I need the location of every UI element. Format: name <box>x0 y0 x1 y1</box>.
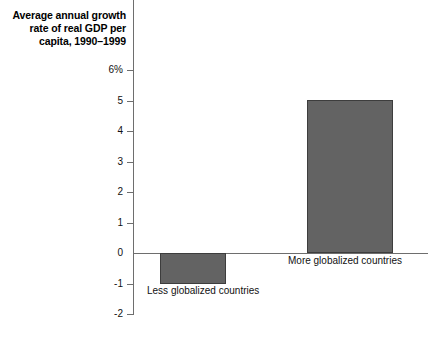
y-tick-label-6: 6% <box>88 65 123 75</box>
y-tick-label-1: 1 <box>88 218 123 228</box>
y-tick-label-5-wrap: 5 <box>88 96 123 106</box>
y-tick-label-1-wrap: 1 <box>88 218 123 228</box>
y-tick-5 <box>127 101 133 102</box>
bar-label-less-globalized: Less globalized countries <box>147 285 259 297</box>
bar-label-more-globalized: More globalized countries <box>288 255 402 267</box>
chart-title: Average annual growth rate of real GDP p… <box>4 9 126 49</box>
y-tick-neg2 <box>127 314 133 315</box>
chart-title-line-3: capita, 1990–1999 <box>4 35 126 48</box>
y-tick-3 <box>127 162 133 163</box>
y-tick-2 <box>127 192 133 193</box>
y-tick-label-4: 4 <box>88 126 123 136</box>
y-tick-6 <box>127 70 133 71</box>
y-tick-label-5: 5 <box>88 96 123 106</box>
y-tick-label-4-wrap: 4 <box>88 126 123 136</box>
chart-title-line-1: Average annual growth <box>4 9 126 22</box>
y-axis-line <box>133 0 134 315</box>
y-tick-4 <box>127 131 133 132</box>
bar-more-globalized <box>307 100 393 253</box>
chart-title-line-2: rate of real GDP per <box>4 22 126 35</box>
y-tick-1 <box>127 223 133 224</box>
bar-less-globalized <box>160 253 226 284</box>
y-tick-label-6-wrap: 6% <box>88 65 123 75</box>
y-tick-label-2: 2 <box>88 187 123 197</box>
y-tick-label-3-wrap: 3 <box>88 157 123 167</box>
chart-container: Average annual growth rate of real GDP p… <box>0 0 440 337</box>
y-tick-label-2-wrap: 2 <box>88 187 123 197</box>
y-tick-label-neg2-wrap: -2 <box>88 309 123 319</box>
y-tick-label-neg1: -1 <box>88 279 123 289</box>
y-tick-label-neg1-wrap: -1 <box>88 279 123 289</box>
y-tick-label-3: 3 <box>88 157 123 167</box>
y-tick-neg1 <box>127 284 133 285</box>
y-tick-label-neg2: -2 <box>88 309 123 319</box>
y-tick-label-0-wrap: 0 <box>88 248 123 258</box>
y-tick-label-0: 0 <box>88 248 123 258</box>
